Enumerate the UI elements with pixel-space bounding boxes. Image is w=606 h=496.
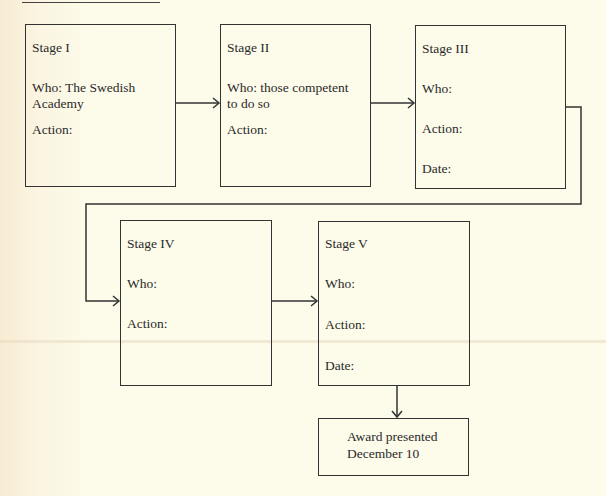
award-line-1: Award presented (347, 429, 438, 445)
stage-1-box: Stage I Who: The Swedish Academy Action: (25, 24, 176, 187)
stage-2-action: Action: (227, 122, 268, 138)
stage-3-action: Action: (422, 121, 463, 137)
stage-4-box: Stage IV Who: Action: (120, 220, 272, 386)
award-box: Award presented December 10 (318, 418, 469, 476)
stage-2-box: Stage II Who: those competent to do so A… (220, 24, 371, 187)
stage-4-action: Action: (127, 316, 168, 332)
stage-2-who: Who: those competent (227, 80, 348, 96)
stage-4-title: Stage IV (127, 236, 175, 252)
stage-2-who-cont: to do so (227, 96, 270, 112)
award-line-2: December 10 (347, 446, 419, 462)
stage-5-date: Date: (325, 358, 354, 374)
stage-5-box: Stage V Who: Action: Date: (318, 221, 470, 386)
stage-1-action: Action: (32, 122, 73, 138)
stage-1-who: Who: The Swedish (32, 80, 135, 96)
stage-5-who: Who: (325, 276, 355, 292)
stage-4-who: Who: (127, 276, 157, 292)
stage-5-action: Action: (325, 317, 366, 333)
stage-2-title: Stage II (227, 40, 269, 56)
stage-3-title: Stage III (422, 41, 469, 57)
stage-1-title: Stage I (32, 40, 70, 56)
stage-5-title: Stage V (325, 236, 368, 252)
stage-1-who-cont: Academy (32, 96, 84, 112)
stage-3-who: Who: (422, 81, 452, 97)
stage-3-box: Stage III Who: Action: Date: (415, 25, 566, 189)
stage-3-date: Date: (422, 161, 451, 177)
